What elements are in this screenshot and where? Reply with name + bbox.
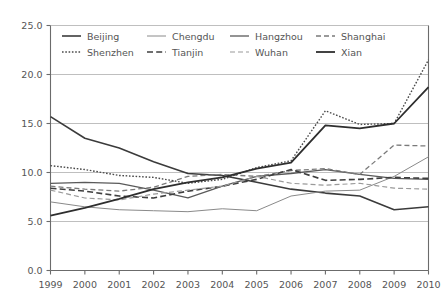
x-axis-tick-label: 2007 bbox=[313, 279, 337, 290]
x-axis-tick-label: 2010 bbox=[416, 279, 440, 290]
legend-label-shenzhen: Shenzhen bbox=[87, 47, 134, 58]
x-axis-tick-label: 1999 bbox=[38, 279, 62, 290]
line-chart: 0.05.010.015.020.025.0 19992000200120022… bbox=[0, 0, 441, 308]
legend-label-xian: Xian bbox=[341, 47, 362, 58]
legend-label-beijing: Beijing bbox=[87, 31, 119, 42]
chart-background bbox=[0, 0, 441, 308]
legend-label-wuhan: Wuhan bbox=[255, 47, 288, 58]
x-axis-tick-label: 2004 bbox=[210, 279, 234, 290]
x-axis-tick-label: 2005 bbox=[245, 279, 269, 290]
y-axis-tick-label: 15.0 bbox=[21, 118, 42, 129]
y-axis-tick-label: 10.0 bbox=[21, 167, 42, 178]
x-axis-tick-label: 2000 bbox=[73, 279, 97, 290]
chart-canvas: 0.05.010.015.020.025.0 19992000200120022… bbox=[0, 0, 441, 308]
y-axis-tick-label: 20.0 bbox=[21, 69, 42, 80]
legend-label-hangzhou: Hangzhou bbox=[255, 31, 303, 42]
y-axis-tick-label: 0.0 bbox=[27, 265, 42, 276]
legend-label-shanghai: Shanghai bbox=[341, 31, 385, 42]
y-axis-tick-label: 25.0 bbox=[21, 20, 42, 31]
y-axis-tick-label: 5.0 bbox=[27, 216, 42, 227]
legend-label-tianjin: Tianjin bbox=[171, 47, 203, 58]
x-axis-tick-label: 2003 bbox=[176, 279, 200, 290]
x-axis-tick-label: 2006 bbox=[279, 279, 303, 290]
x-axis-tick-label: 2001 bbox=[107, 279, 131, 290]
x-axis-tick-label: 2008 bbox=[348, 279, 372, 290]
legend-label-chengdu: Chengdu bbox=[172, 31, 215, 42]
x-axis-tick-label: 2009 bbox=[382, 279, 406, 290]
x-axis-tick-label: 2002 bbox=[141, 279, 165, 290]
